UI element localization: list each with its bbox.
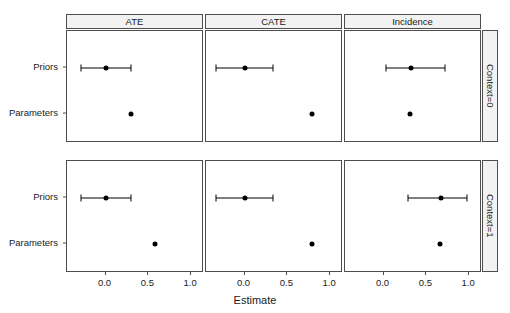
x-axis-tick-label: 0.5 <box>419 278 432 288</box>
estimate-point <box>408 111 413 116</box>
x-axis-tick-label: 0.0 <box>98 278 111 288</box>
y-axis-label-parameters: Parameters <box>0 108 58 118</box>
strip-header-incidence: Incidence <box>344 14 481 29</box>
estimate-point <box>129 111 134 116</box>
x-axis-tick <box>383 272 384 275</box>
x-axis-tick-label: 1.0 <box>323 278 336 288</box>
estimate-point <box>408 65 413 70</box>
estimate-point <box>310 241 315 246</box>
interval-cap-high <box>466 194 467 201</box>
forest-plot-figure: ATECATEIncidenceContext=0Context=1Priors… <box>0 0 510 313</box>
interval-cap-high <box>131 64 132 71</box>
y-axis-label-priors: Priors <box>0 192 58 202</box>
strip-row-label: Context=0 <box>485 64 495 108</box>
panel-incidence-context0 <box>344 30 481 142</box>
x-axis-tick-label: 0.0 <box>376 278 389 288</box>
panel-cate-context0 <box>205 30 342 142</box>
interval-cap-low <box>80 194 81 201</box>
estimate-point <box>310 111 315 116</box>
x-axis-title: Estimate <box>0 295 510 306</box>
y-axis-label-parameters: Parameters <box>0 238 58 248</box>
x-axis-tick-label: 1.0 <box>184 278 197 288</box>
x-axis-tick-label: 0.5 <box>141 278 154 288</box>
estimate-point <box>103 195 108 200</box>
x-axis-tick <box>244 272 245 275</box>
interval-bar <box>386 67 445 68</box>
x-axis-tick-label: 1.0 <box>462 278 475 288</box>
interval-cap-low <box>216 194 217 201</box>
strip-header-ate: ATE <box>66 14 203 29</box>
x-axis-tick <box>147 272 148 275</box>
x-axis-tick-label: 0.5 <box>280 278 293 288</box>
estimate-point <box>438 241 443 246</box>
interval-cap-high <box>272 194 273 201</box>
panel-ate-context0 <box>66 30 203 142</box>
panel-incidence-context1 <box>344 160 481 272</box>
panel-ate-context1 <box>66 160 203 272</box>
interval-cap-high <box>131 194 132 201</box>
x-axis-tick <box>468 272 469 275</box>
interval-cap-low <box>216 64 217 71</box>
x-axis-tick <box>190 272 191 275</box>
strip-row-context-1: Context=1 <box>482 160 498 272</box>
y-axis-tick <box>63 66 66 67</box>
interval-bar <box>408 197 467 198</box>
strip-header-label: CATE <box>261 17 286 27</box>
y-axis-tick <box>63 242 66 243</box>
interval-cap-low <box>407 194 408 201</box>
estimate-point <box>153 241 158 246</box>
y-axis-label-priors: Priors <box>0 62 58 72</box>
x-axis-tick <box>425 272 426 275</box>
strip-header-label: Incidence <box>392 17 433 27</box>
strip-header-cate: CATE <box>205 14 342 29</box>
x-axis-tick <box>105 272 106 275</box>
interval-cap-low <box>386 64 387 71</box>
y-axis-tick <box>63 112 66 113</box>
strip-row-label: Context=1 <box>485 194 495 238</box>
estimate-point <box>438 195 443 200</box>
strip-header-label: ATE <box>126 17 144 27</box>
interval-cap-high <box>272 64 273 71</box>
x-axis-tick-label: 0.0 <box>237 278 250 288</box>
estimate-point <box>242 195 247 200</box>
interval-cap-high <box>445 64 446 71</box>
strip-row-context-0: Context=0 <box>482 30 498 142</box>
y-axis-tick <box>63 196 66 197</box>
interval-cap-low <box>80 64 81 71</box>
estimate-point <box>103 65 108 70</box>
x-axis-tick <box>329 272 330 275</box>
x-axis-tick <box>286 272 287 275</box>
estimate-point <box>242 65 247 70</box>
panel-cate-context1 <box>205 160 342 272</box>
